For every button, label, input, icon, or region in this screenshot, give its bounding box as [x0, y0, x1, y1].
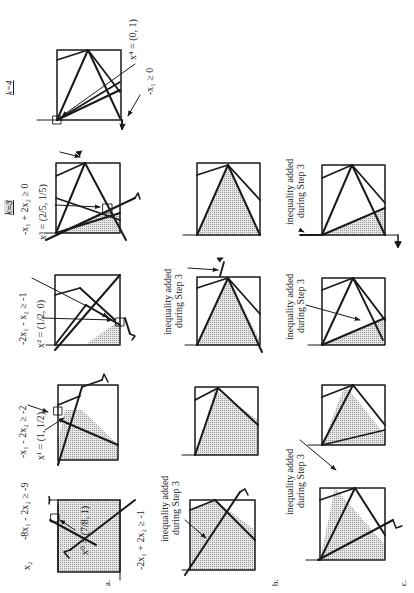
panel-b-k2 — [185, 258, 262, 352]
iteration-label-k4: k=4 — [4, 80, 14, 95]
point-label-x0: x⁰ = (7/8, 1) — [80, 506, 90, 555]
row-label-c: c. — [398, 580, 408, 586]
note-c-k3-line1: inequality added — [285, 159, 295, 225]
note-c-k3-line2: during Step 3 — [296, 164, 306, 218]
panel-a-k0 — [49, 496, 135, 580]
note-b-k0-line1: inequality added — [160, 476, 170, 542]
point-label-x2: x² = (1/2, 0) — [36, 300, 46, 348]
panel-a-k3 — [44, 151, 140, 240]
row-label-b: b. — [270, 579, 280, 586]
panel-c-k3 — [300, 165, 401, 248]
panel-b-k0 — [182, 489, 255, 575]
point-label-x1: x¹ = (1, 1/2) — [36, 412, 46, 460]
note-b-k2-line1: inequality added — [163, 269, 173, 335]
point-label-x4: x⁴ = (0, 1) — [128, 19, 138, 60]
axis-label-x2: x₂ — [22, 562, 32, 571]
note-b-k2-line2: during Step 3 — [174, 274, 184, 328]
panel-c-k0 — [300, 440, 402, 560]
constraint-a-k1: -x₁ - 2x₂ ≥ -2 — [18, 406, 28, 458]
row-label-a: a. — [102, 580, 112, 586]
point-label-x3: x³ = (2/5, 1/5) — [38, 184, 48, 240]
panel-a-k4 — [37, 50, 140, 130]
panel-b-k1 — [182, 387, 258, 455]
panel-c-k2 — [308, 278, 385, 345]
note-c-k1-line1: inequality added — [285, 274, 295, 340]
constraint-a-k4: -x₁ ≥ 0 — [145, 68, 155, 95]
iteration-label-k3: k=3 — [4, 200, 14, 215]
note-b-k0-line2: during Step 3 — [171, 481, 181, 535]
constraint-a-k0-top: -8x₁ - 2x₂ ≥ -9 — [20, 483, 30, 540]
panel-b-k3 — [183, 163, 260, 235]
note-c-k0-line1: inequality added — [285, 449, 295, 515]
note-c-k0-line2: during Step 3 — [296, 454, 306, 508]
note-c-k1-line2: during Step 3 — [296, 279, 306, 333]
cutting-plane-figure — [0, 0, 414, 593]
constraint-a-k0-bottom: -2x₁ + 2x₂ ≥ -1 — [136, 510, 146, 570]
constraint-a-k2: -2x₁ - x₂ ≥ -1 — [18, 293, 28, 345]
panel-a-k2 — [32, 275, 135, 350]
constraint-a-k3: -x₁ + 2x₂ ≥ 0 — [20, 184, 30, 235]
